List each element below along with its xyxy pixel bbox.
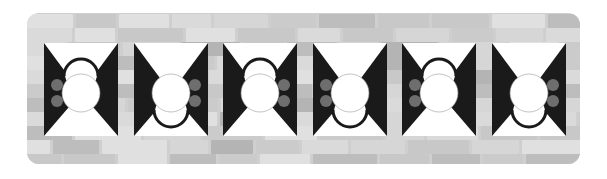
brick xyxy=(238,28,295,42)
brick xyxy=(396,28,449,42)
brick xyxy=(432,14,489,28)
grey-dot xyxy=(189,79,201,91)
grey-dot xyxy=(320,95,332,107)
brick xyxy=(579,112,580,126)
center-circle xyxy=(331,74,369,112)
brick xyxy=(76,14,116,28)
grey-dot xyxy=(51,79,63,91)
grey-dot xyxy=(278,95,290,107)
brick xyxy=(380,154,429,164)
brick xyxy=(526,154,580,164)
brick xyxy=(211,140,253,154)
brick xyxy=(496,28,543,42)
brick xyxy=(548,14,580,28)
brick xyxy=(75,28,115,42)
brick xyxy=(492,14,545,28)
brick xyxy=(452,28,493,42)
brick xyxy=(546,28,580,42)
center-circle xyxy=(510,74,548,112)
grey-dot xyxy=(189,95,201,107)
center-circle xyxy=(241,74,279,112)
grey-dot xyxy=(278,79,290,91)
brick xyxy=(522,140,580,154)
tile-2 xyxy=(134,43,208,136)
grey-dot xyxy=(51,95,63,107)
brick xyxy=(186,28,235,42)
tile-3 xyxy=(223,43,297,136)
brick xyxy=(27,140,50,154)
brick xyxy=(343,28,393,42)
brick xyxy=(172,14,211,28)
brick xyxy=(119,14,169,28)
brick xyxy=(64,154,115,164)
brick xyxy=(53,140,99,154)
brick xyxy=(313,154,377,164)
grey-dot xyxy=(409,79,421,91)
brick xyxy=(483,154,523,164)
brick xyxy=(378,14,429,28)
tile-6 xyxy=(492,43,566,136)
tile-1 xyxy=(44,43,118,136)
brick xyxy=(170,154,216,164)
grey-dot xyxy=(547,95,559,107)
brick xyxy=(219,154,257,164)
brick xyxy=(271,14,316,28)
brick xyxy=(27,154,61,164)
tile-5 xyxy=(402,43,476,136)
brick xyxy=(260,154,310,164)
brick xyxy=(351,140,405,154)
center-circle xyxy=(420,74,458,112)
center-circle xyxy=(62,74,100,112)
grey-dot xyxy=(547,79,559,91)
center-circle xyxy=(152,74,190,112)
brick xyxy=(27,14,73,28)
brick xyxy=(118,28,183,42)
grey-dot xyxy=(320,79,332,91)
brick xyxy=(214,14,268,28)
tile-4 xyxy=(313,43,387,136)
brick xyxy=(256,140,299,154)
brick xyxy=(27,28,72,42)
brick xyxy=(298,28,340,42)
brick xyxy=(118,154,167,164)
brick xyxy=(319,14,375,28)
grey-dot xyxy=(409,95,421,107)
brick xyxy=(408,140,469,154)
brick xyxy=(432,154,480,164)
brick xyxy=(170,140,208,154)
brick xyxy=(102,140,167,154)
brick xyxy=(472,140,519,154)
brick xyxy=(302,140,348,154)
